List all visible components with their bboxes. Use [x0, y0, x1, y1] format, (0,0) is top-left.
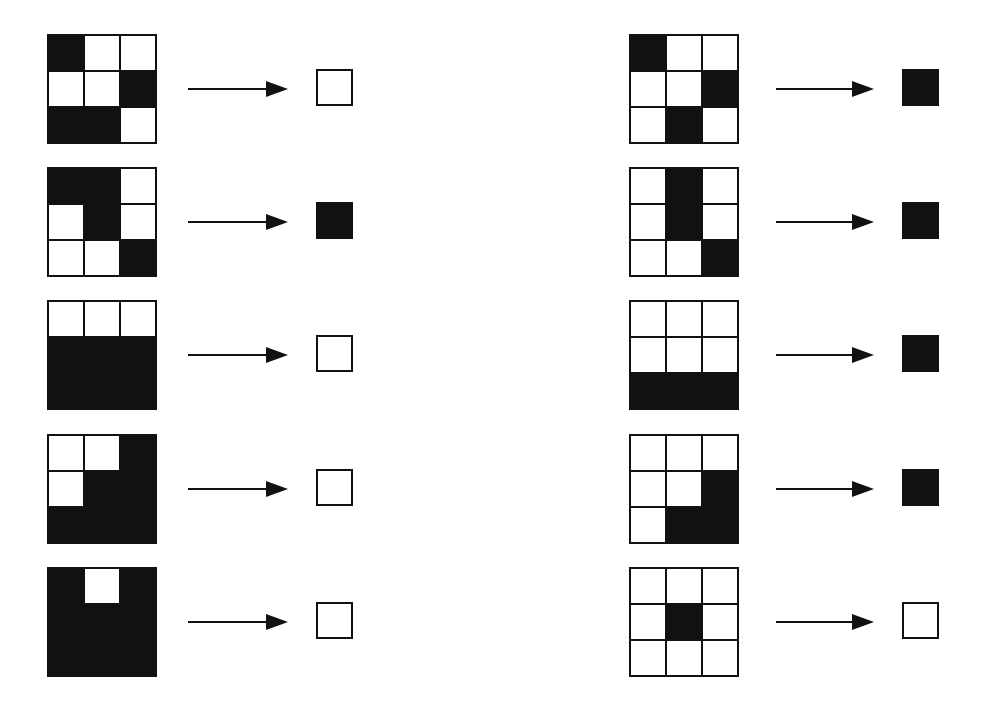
grid-cell-r1c2-white [667, 436, 701, 470]
grid-cell-r1c3-white [121, 302, 155, 336]
grid-cell-r2c3-black [121, 338, 155, 372]
right-arrow-icon [188, 212, 288, 232]
grid-cell-r1c3-white [121, 36, 155, 70]
left-input-grid-3 [47, 300, 157, 410]
grid-cell-r1c1-white [49, 302, 83, 336]
left-output-square-1-white [316, 69, 353, 106]
grid-cell-r3c1-white [631, 508, 665, 542]
grid-cell-r2c2-black [667, 605, 701, 639]
arrow-head [266, 81, 288, 97]
grid-cell-r3c2-white [667, 641, 701, 675]
grid-cell-r3c2-white [85, 241, 119, 275]
right-arrow-icon [188, 345, 288, 365]
arrow-head [266, 214, 288, 230]
arrow-shaft [776, 621, 854, 623]
grid-cell-r1c2-white [667, 36, 701, 70]
grid-cell-r3c2-white [667, 241, 701, 275]
grid-cell-r3c1-white [631, 108, 665, 142]
arrow-shaft [776, 221, 854, 223]
arrow-head [852, 614, 874, 630]
grid-cell-r2c3-white [703, 338, 737, 372]
grid-cell-r3c1-black [49, 108, 83, 142]
right-output-square-3-black [902, 335, 939, 372]
grid-cell-r1c3-white [703, 36, 737, 70]
grid-cell-r2c1-white [631, 605, 665, 639]
grid-cell-r2c1-white [49, 72, 83, 106]
grid-cell-r3c2-black [85, 374, 119, 408]
grid-cell-r3c3-white [703, 641, 737, 675]
grid-cell-r2c1-white [631, 72, 665, 106]
right-input-grid-4 [629, 434, 739, 544]
grid-cell-r1c3-white [703, 569, 737, 603]
arrow-shaft [188, 488, 268, 490]
right-input-grid-2 [629, 167, 739, 277]
grid-cell-r3c2-black [667, 108, 701, 142]
grid-cell-r2c1-white [49, 472, 83, 506]
grid-cell-r3c1-white [49, 241, 83, 275]
right-arrow-icon [776, 79, 874, 99]
arrow-shaft [188, 621, 268, 623]
grid-cell-r3c1-white [631, 641, 665, 675]
grid-cell-r3c3-black [121, 241, 155, 275]
grid-cell-r2c3-white [703, 205, 737, 239]
grid-cell-r2c1-white [631, 472, 665, 506]
grid-cell-r2c3-black [121, 72, 155, 106]
grid-cell-r2c3-white [703, 605, 737, 639]
arrow-shaft [188, 354, 268, 356]
grid-cell-r3c1-black [631, 374, 665, 408]
grid-cell-r1c1-white [631, 436, 665, 470]
grid-cell-r3c1-black [49, 508, 83, 542]
grid-cell-r3c3-black [703, 508, 737, 542]
grid-cell-r3c1-black [49, 374, 83, 408]
grid-cell-r1c2-white [85, 302, 119, 336]
grid-cell-r2c1-white [49, 205, 83, 239]
grid-cell-r2c3-black [703, 72, 737, 106]
right-output-square-4-black [902, 469, 939, 506]
grid-cell-r2c1-white [631, 205, 665, 239]
arrow-head [852, 214, 874, 230]
right-input-grid-1 [629, 34, 739, 144]
grid-cell-r2c3-white [121, 205, 155, 239]
left-input-grid-1 [47, 34, 157, 144]
grid-cell-r1c2-white [85, 36, 119, 70]
grid-cell-r3c3-white [121, 108, 155, 142]
right-output-square-5-white [902, 602, 939, 639]
grid-cell-r3c2-black [85, 508, 119, 542]
grid-cell-r1c3-white [121, 169, 155, 203]
grid-cell-r1c2-white [85, 569, 119, 603]
left-output-square-4-white [316, 469, 353, 506]
grid-cell-r3c3-white [703, 108, 737, 142]
grid-cell-r3c3-black [703, 374, 737, 408]
left-input-grid-4 [47, 434, 157, 544]
grid-cell-r3c3-black [121, 508, 155, 542]
grid-cell-r2c3-black [121, 605, 155, 639]
left-output-square-5-white [316, 602, 353, 639]
grid-cell-r1c3-black [121, 569, 155, 603]
left-output-square-2-black [316, 202, 353, 239]
grid-cell-r1c3-white [703, 302, 737, 336]
arrow-head [266, 481, 288, 497]
right-input-grid-5 [629, 567, 739, 677]
grid-cell-r1c3-black [121, 436, 155, 470]
grid-cell-r3c1-white [631, 241, 665, 275]
grid-cell-r2c3-black [121, 472, 155, 506]
grid-cell-r3c2-black [667, 508, 701, 542]
grid-cell-r1c1-black [49, 36, 83, 70]
right-arrow-icon [188, 79, 288, 99]
grid-cell-r3c3-black [121, 641, 155, 675]
arrow-head [852, 81, 874, 97]
grid-cell-r3c2-black [85, 641, 119, 675]
grid-cell-r1c1-black [49, 569, 83, 603]
grid-cell-r1c3-white [703, 436, 737, 470]
left-input-grid-5 [47, 567, 157, 677]
grid-cell-r2c2-white [667, 472, 701, 506]
grid-cell-r2c2-white [667, 338, 701, 372]
grid-cell-r1c2-black [667, 169, 701, 203]
grid-cell-r2c2-black [85, 472, 119, 506]
grid-cell-r1c2-black [85, 169, 119, 203]
right-output-square-1-black [902, 69, 939, 106]
grid-cell-r1c2-white [667, 302, 701, 336]
grid-cell-r3c3-black [121, 374, 155, 408]
right-arrow-icon [776, 612, 874, 632]
grid-cell-r2c1-white [631, 338, 665, 372]
